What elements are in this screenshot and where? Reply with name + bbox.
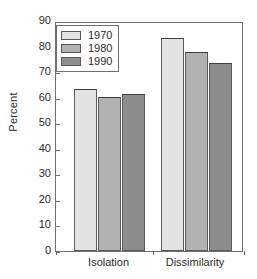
y-axis-title: Percent — [7, 72, 19, 152]
bar-dissimilarity-1990 — [209, 63, 232, 251]
y-tick-label: 10 — [39, 219, 51, 230]
chart-legend: 197019801990 — [56, 25, 119, 72]
bar-isolation-1990 — [122, 94, 145, 251]
bar-isolation-1980 — [98, 97, 121, 251]
x-axis-label-dissimilarity: Dissimilarity — [145, 256, 245, 268]
legend-swatch-1970 — [61, 31, 81, 40]
bar-dissimilarity-1980 — [185, 52, 208, 251]
x-tick-mark-2 — [244, 251, 245, 255]
legend-swatch-1990 — [61, 57, 81, 66]
legend-item-1980: 1980 — [61, 42, 112, 55]
y-tick-label: 50 — [39, 117, 51, 128]
y-tick-label: 0 — [45, 245, 51, 256]
y-tick-label: 60 — [39, 92, 51, 103]
bar-dissimilarity-1970 — [161, 38, 184, 251]
legend-label-1970: 1970 — [88, 30, 112, 41]
y-tick-label: 30 — [39, 168, 51, 179]
y-tick-label: 90 — [39, 15, 51, 26]
x-tick-mark-0 — [56, 251, 57, 255]
legend-label-1990: 1990 — [88, 56, 112, 67]
bar-chart-figure: Percent 0102030405060708090 IsolationDis… — [0, 0, 257, 279]
y-tick-label: 70 — [39, 66, 51, 77]
y-tick-label: 40 — [39, 143, 51, 154]
y-tick-label: 80 — [39, 41, 51, 52]
legend-swatch-1980 — [61, 44, 81, 53]
legend-item-1990: 1990 — [61, 55, 112, 68]
y-tick-label: 20 — [39, 194, 51, 205]
x-axis-label-isolation: Isolation — [59, 256, 159, 268]
legend-label-1980: 1980 — [88, 43, 112, 54]
bar-isolation-1970 — [74, 89, 97, 251]
legend-item-1970: 1970 — [61, 29, 112, 42]
x-tick-mark-1 — [153, 251, 154, 255]
